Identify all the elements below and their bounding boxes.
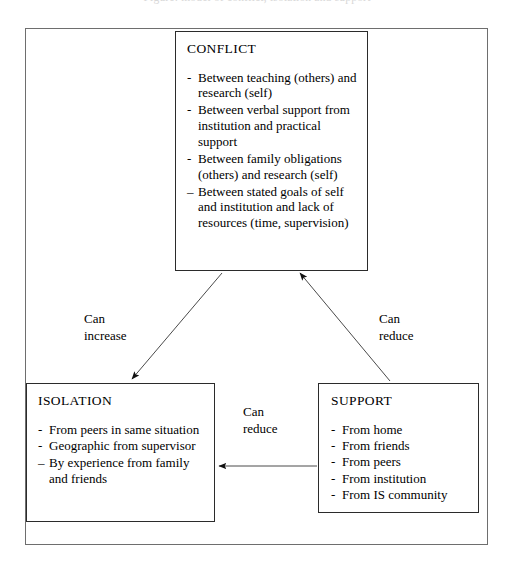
bullet-marker: - — [331, 487, 342, 503]
bullet-marker: – — [187, 184, 198, 200]
list-item: - Geographic from supervisor — [38, 438, 206, 454]
node-support-title: SUPPORT — [331, 393, 470, 409]
list-item: - From institution — [331, 471, 470, 487]
list-item: - From peers — [331, 454, 470, 470]
bullet-marker: - — [331, 422, 342, 438]
list-item: - Between verbal support from institutio… — [187, 102, 357, 150]
list-item: - From friends — [331, 438, 470, 454]
node-isolation-title: ISOLATION — [38, 393, 206, 409]
bullet-marker: - — [331, 454, 342, 470]
bullet-marker: - — [38, 438, 49, 454]
node-conflict-title: CONFLICT — [187, 41, 357, 57]
list-item: - From IS community — [331, 487, 470, 503]
bullet-marker: - — [38, 422, 49, 438]
bullet-marker: - — [331, 438, 342, 454]
node-conflict-bullets: - Between teaching (others) and research… — [187, 70, 357, 232]
bullet-text: Between verbal support from institution … — [198, 102, 357, 150]
bullet-text: Between stated goals of self and institu… — [198, 184, 357, 232]
diagram-canvas: Figure: model of conflict, isolation and… — [0, 0, 514, 571]
bullet-marker: - — [187, 151, 198, 167]
bullet-marker: – — [38, 455, 49, 471]
node-support-bullets: - From home - From friends - From peers … — [331, 422, 470, 503]
node-support[interactable]: SUPPORT - From home - From friends - Fro… — [318, 383, 479, 513]
node-isolation-bullets: - From peers in same situation - Geograp… — [38, 422, 206, 487]
bullet-text: From IS community — [342, 487, 470, 503]
node-isolation[interactable]: ISOLATION - From peers in same situation… — [26, 383, 215, 522]
list-item: - Between teaching (others) and research… — [187, 70, 357, 102]
bullet-text: Between teaching (others) and research (… — [198, 70, 357, 102]
bullet-text: Geographic from supervisor — [49, 438, 206, 454]
bullet-text: From peers in same situation — [49, 422, 206, 438]
edge-label-can-increase: Can increase — [84, 311, 127, 344]
bullet-marker: - — [187, 70, 198, 86]
clipped-caption: Figure: model of conflict, isolation and… — [0, 0, 514, 5]
bullet-marker: - — [331, 471, 342, 487]
bullet-marker: - — [187, 102, 198, 118]
bullet-text: From peers — [342, 454, 470, 470]
list-item: – By experience from family and friends — [38, 455, 206, 487]
bullet-text: From institution — [342, 471, 470, 487]
list-item: - From home — [331, 422, 470, 438]
list-item: - Between family obligations (others) an… — [187, 151, 357, 183]
bullet-text: From home — [342, 422, 470, 438]
list-item: – Between stated goals of self and insti… — [187, 184, 357, 232]
edge-label-can-reduce-support-conflict: Can reduce — [379, 311, 414, 344]
list-item: - From peers in same situation — [38, 422, 206, 438]
node-conflict[interactable]: CONFLICT - Between teaching (others) and… — [175, 31, 368, 271]
bullet-text: From friends — [342, 438, 470, 454]
bullet-text: Between family obligations (others) and … — [198, 151, 357, 183]
bullet-text: By experience from family and friends — [49, 455, 206, 487]
edge-label-can-reduce-support-isolation: Can reduce — [243, 404, 278, 437]
